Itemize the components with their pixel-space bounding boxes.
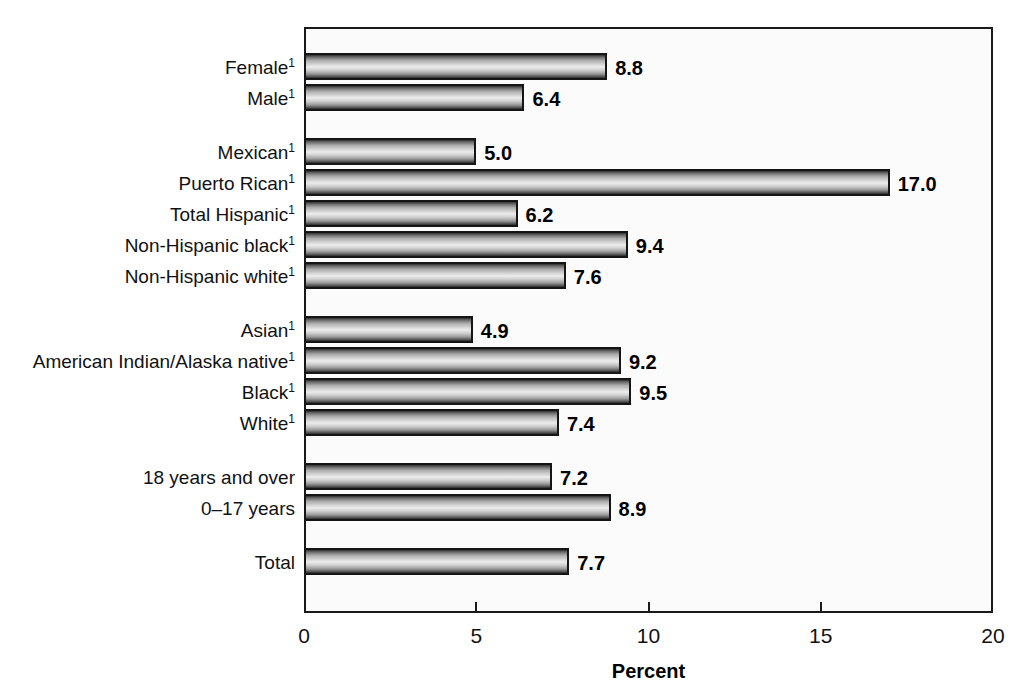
footnote-marker: 1 (288, 265, 295, 279)
category-label: 0–17 years (0, 499, 295, 518)
bar-value-label: 7.2 (560, 468, 588, 488)
bar (304, 494, 611, 521)
footnote-marker: 1 (288, 203, 295, 217)
category-label: Black1 (0, 383, 295, 402)
footnote-marker: 1 (288, 172, 295, 186)
bar-value-label: 7.6 (574, 267, 602, 287)
footnote-marker: 1 (288, 141, 295, 155)
bar-chart: Female1Male1Mexican1Puerto Rican1Total H… (0, 0, 1018, 690)
category-label: White1 (0, 414, 295, 433)
footnote-marker: 1 (288, 56, 295, 70)
category-label-text: American Indian/Alaska native (33, 351, 289, 372)
bar-value-label: 17.0 (898, 174, 937, 194)
tick-mark (820, 602, 822, 613)
bar (304, 409, 559, 436)
bar-value-label: 8.9 (619, 499, 647, 519)
bar-value-label: 9.4 (636, 236, 664, 256)
category-label-text: White (240, 413, 289, 434)
footnote-marker: 1 (288, 381, 295, 395)
category-label: Male1 (0, 89, 295, 108)
x-tick-label: 0 (264, 625, 344, 646)
category-label-text: Asian (241, 320, 289, 341)
category-label-text: 0–17 years (201, 498, 295, 519)
bar (304, 200, 518, 227)
category-label: American Indian/Alaska native1 (0, 352, 295, 371)
category-label: Female1 (0, 58, 295, 77)
category-label-text: Non-Hispanic black (125, 235, 289, 256)
tick-mark (475, 602, 477, 613)
bar (304, 169, 890, 196)
category-label: 18 years and over (0, 468, 295, 487)
bar (304, 378, 631, 405)
category-label: Non-Hispanic black1 (0, 236, 295, 255)
bar-value-label: 8.8 (615, 58, 643, 78)
bar (304, 53, 607, 80)
x-tick-label: 5 (436, 625, 516, 646)
category-label-text: Male (247, 88, 288, 109)
category-label-text: Non-Hispanic white (125, 266, 289, 287)
x-tick-label: 20 (953, 625, 1018, 646)
bar (304, 84, 524, 111)
bar-value-label: 6.4 (532, 89, 560, 109)
bar-value-label: 4.9 (481, 321, 509, 341)
bar-value-label: 9.5 (639, 383, 667, 403)
footnote-marker: 1 (288, 319, 295, 333)
category-label: Non-Hispanic white1 (0, 267, 295, 286)
category-label-text: 18 years and over (143, 467, 295, 488)
category-label: Total Hispanic1 (0, 205, 295, 224)
bar (304, 316, 473, 343)
bar-value-label: 6.2 (526, 205, 554, 225)
x-tick-label: 10 (609, 625, 689, 646)
x-tick-label: 15 (781, 625, 861, 646)
category-label: Mexican1 (0, 143, 295, 162)
bar-value-label: 9.2 (629, 352, 657, 372)
category-label-text: Total (255, 552, 295, 573)
category-label: Asian1 (0, 321, 295, 340)
bar-value-label: 7.4 (567, 414, 595, 434)
bar-value-label: 7.7 (577, 553, 605, 573)
footnote-marker: 1 (288, 412, 295, 426)
x-axis-title: Percent (304, 661, 993, 681)
bar (304, 347, 621, 374)
bar (304, 231, 628, 258)
bar-value-label: 5.0 (484, 143, 512, 163)
category-label: Puerto Rican1 (0, 174, 295, 193)
category-label: Total (0, 553, 295, 572)
footnote-marker: 1 (288, 234, 295, 248)
category-label-text: Total Hispanic (170, 204, 288, 225)
footnote-marker: 1 (288, 350, 295, 364)
bar (304, 548, 569, 575)
category-label-text: Black (242, 382, 288, 403)
footnote-marker: 1 (288, 87, 295, 101)
bar (304, 138, 476, 165)
bar (304, 463, 552, 490)
bar (304, 262, 566, 289)
category-label-text: Puerto Rican (178, 173, 288, 194)
tick-mark (648, 602, 650, 613)
category-label-text: Mexican (218, 142, 289, 163)
category-label-text: Female (225, 57, 288, 78)
